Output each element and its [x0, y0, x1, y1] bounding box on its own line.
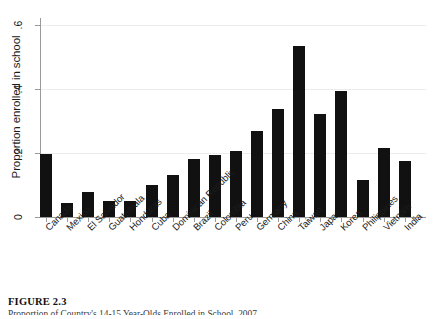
- y-tick-label: .2: [12, 141, 24, 165]
- gridline: [41, 89, 426, 90]
- gridline: [41, 25, 426, 26]
- figure-2-3: Proportion enrolled in school 0.2.4.6 Ca…: [0, 0, 433, 319]
- bar-chart-plot: Proportion enrolled in school 0.2.4.6 Ca…: [0, 0, 433, 230]
- bar: [167, 175, 179, 217]
- bar: [251, 131, 263, 217]
- y-tick-label: .4: [12, 77, 24, 101]
- figure-caption-text: Proportion of Country's 14-15 Year-Olds …: [8, 309, 428, 315]
- bar: [314, 114, 326, 217]
- figure-label: FIGURE 2.3: [8, 296, 428, 308]
- y-tick-label: 0: [12, 205, 24, 229]
- bar: [335, 91, 347, 217]
- y-tick-label: .6: [12, 13, 24, 37]
- y-axis-title: Proportion enrolled in school: [10, 12, 22, 202]
- figure-caption: FIGURE 2.3 Proportion of Country's 14-15…: [8, 296, 428, 315]
- bar: [40, 154, 52, 217]
- bar: [293, 46, 305, 217]
